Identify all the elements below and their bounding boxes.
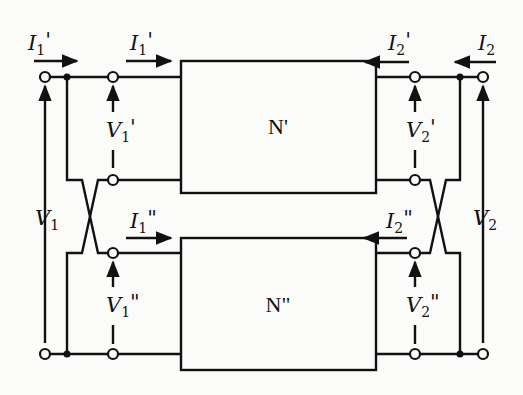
network-n-double-prime: N": [181, 238, 376, 370]
circuit-diagram: N' N": [0, 0, 523, 395]
label-v2: V2: [473, 206, 497, 233]
terminal-n-double-prime-1b: [108, 349, 118, 359]
terminal-port2-bottom: [478, 349, 488, 359]
junction-dot: [64, 351, 71, 358]
terminal-n-double-prime-2a: [410, 248, 420, 258]
terminal-n-prime-1b: [108, 175, 118, 185]
terminal-n-double-prime-1a: [108, 248, 118, 258]
label-v1: V1: [35, 206, 59, 233]
label-v2-bottom: V2": [406, 290, 440, 320]
terminal-port1-bottom: [40, 349, 50, 359]
junction-dot: [457, 74, 464, 81]
junction-dot: [457, 351, 464, 358]
label-i2-outer: I2: [477, 31, 495, 58]
label-i2-bottom: I2": [385, 206, 413, 236]
terminal-n-prime-2b: [410, 175, 420, 185]
terminal-n-prime-1a: [108, 72, 118, 82]
junction-dot: [64, 74, 71, 81]
label-i1-bottom: I1": [129, 206, 157, 236]
network-n-double-prime-label: N": [266, 292, 291, 317]
label-i1-top: I1': [129, 28, 153, 58]
label-v2-top: V2': [406, 115, 436, 145]
label-v1-bottom: V1": [106, 290, 140, 320]
label-i1-outer: I1': [27, 28, 51, 58]
network-n-prime-label: N': [268, 114, 288, 139]
terminal-n-double-prime-2b: [410, 349, 420, 359]
terminal-port2-top: [478, 72, 488, 82]
network-n-prime: N': [181, 61, 376, 193]
terminal-port1-top: [40, 72, 50, 82]
label-i2-top: I2': [387, 28, 411, 58]
terminal-n-prime-2a: [410, 72, 420, 82]
label-v1-top: V1': [106, 115, 136, 145]
